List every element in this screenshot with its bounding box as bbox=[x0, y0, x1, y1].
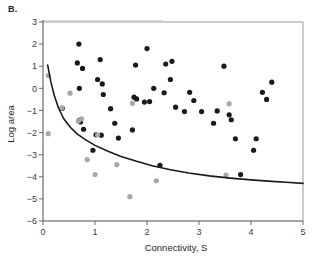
data-point bbox=[187, 90, 192, 95]
y-tick-label: −1 bbox=[27, 106, 37, 116]
data-point bbox=[221, 64, 226, 69]
data-point bbox=[199, 109, 204, 114]
data-point bbox=[101, 92, 106, 97]
data-point bbox=[227, 101, 232, 106]
data-point bbox=[251, 148, 256, 153]
data-point bbox=[80, 66, 85, 71]
data-point bbox=[98, 57, 103, 62]
x-tick-label: 1 bbox=[92, 227, 97, 237]
x-axis-title: Connectivity, S bbox=[145, 242, 208, 253]
figure-panel-b: B. 3210−1−2−3−4−5−6012345 Connectivity, … bbox=[0, 0, 312, 257]
data-point bbox=[168, 77, 173, 82]
data-point bbox=[127, 194, 132, 199]
data-point bbox=[147, 99, 152, 104]
data-point bbox=[254, 136, 259, 141]
x-tick-label: 2 bbox=[144, 227, 149, 237]
x-tick-label: 3 bbox=[196, 227, 201, 237]
data-point bbox=[81, 127, 86, 132]
data-point bbox=[264, 97, 269, 102]
data-point bbox=[114, 162, 119, 167]
data-point bbox=[90, 148, 95, 153]
x-tick-label: 4 bbox=[248, 227, 253, 237]
data-point bbox=[229, 117, 234, 122]
data-points bbox=[46, 42, 275, 200]
y-tick-label: −5 bbox=[27, 194, 37, 204]
data-point bbox=[173, 105, 178, 110]
y-tick-label: −6 bbox=[27, 216, 37, 226]
data-point bbox=[95, 132, 100, 137]
y-axis-title: Log area bbox=[5, 105, 16, 143]
data-point bbox=[133, 63, 138, 68]
data-point bbox=[227, 112, 232, 117]
data-point bbox=[260, 90, 265, 95]
scatter-plot: 3210−1−2−3−4−5−6012345 Connectivity, S L… bbox=[0, 0, 312, 257]
data-point bbox=[163, 61, 168, 66]
data-point bbox=[233, 136, 238, 141]
data-point bbox=[130, 127, 135, 132]
data-point bbox=[95, 77, 100, 82]
fit-curve-path bbox=[48, 65, 303, 183]
data-point bbox=[67, 91, 72, 96]
data-point bbox=[46, 131, 51, 136]
data-point bbox=[211, 121, 216, 126]
data-point bbox=[191, 98, 196, 103]
data-point bbox=[162, 90, 167, 95]
data-point bbox=[144, 46, 149, 51]
data-point bbox=[100, 81, 105, 86]
data-point bbox=[130, 101, 135, 106]
data-point bbox=[182, 109, 187, 114]
axis-tick-labels: 3210−1−2−3−4−5−6012345 bbox=[27, 17, 306, 237]
data-point bbox=[269, 80, 274, 85]
data-point bbox=[134, 96, 139, 101]
data-point bbox=[112, 121, 117, 126]
data-point bbox=[154, 178, 159, 183]
y-tick-label: 0 bbox=[32, 84, 37, 94]
x-tick-label: 0 bbox=[40, 227, 45, 237]
data-point bbox=[151, 86, 156, 91]
data-point bbox=[79, 116, 84, 121]
data-point bbox=[108, 106, 113, 111]
data-point bbox=[76, 42, 81, 47]
data-point bbox=[116, 135, 121, 140]
data-point bbox=[77, 86, 82, 91]
y-tick-label: 2 bbox=[32, 39, 37, 49]
data-point bbox=[215, 108, 220, 113]
data-point bbox=[92, 172, 97, 177]
data-point bbox=[142, 99, 147, 104]
y-tick-label: −4 bbox=[27, 172, 37, 182]
data-point bbox=[85, 157, 90, 162]
data-point bbox=[75, 60, 80, 65]
y-tick-label: 3 bbox=[32, 17, 37, 27]
y-tick-label: −3 bbox=[27, 150, 37, 160]
fitted-curve bbox=[48, 65, 303, 183]
data-point bbox=[238, 172, 243, 177]
y-tick-label: −2 bbox=[27, 128, 37, 138]
y-tick-label: 1 bbox=[32, 61, 37, 71]
data-point bbox=[169, 59, 174, 64]
x-tick-label: 5 bbox=[300, 227, 305, 237]
